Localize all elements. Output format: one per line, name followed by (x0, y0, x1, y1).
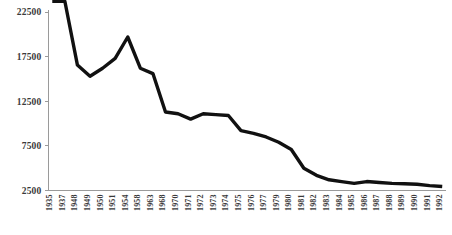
x-tick-label: 1951 (108, 195, 117, 211)
data-series (52, 1, 442, 186)
x-tick-label: 1982 (309, 195, 318, 211)
x-tick-label: 1983 (322, 195, 331, 211)
x-tick-label: 1981 (297, 195, 306, 211)
x-tick-label: 1973 (209, 195, 218, 211)
x-tick-label: 1987 (372, 195, 381, 211)
x-tick-label: 1977 (259, 195, 268, 211)
y-axis: 22500175001250075002500 (17, 7, 49, 196)
x-tick-label: 1949 (83, 195, 92, 211)
x-tick-label: 1984 (335, 195, 344, 211)
x-tick-label: 1979 (272, 195, 281, 211)
x-tick-label: 1989 (397, 195, 406, 211)
x-tick-label: 1937 (58, 195, 67, 211)
x-tick-label: 1963 (146, 195, 155, 211)
y-tick-label: 7500 (22, 141, 42, 151)
x-tick-label: 1992 (435, 195, 444, 211)
series-line (52, 1, 442, 186)
x-tick-label: 1948 (70, 195, 79, 211)
x-tick-label: 1950 (96, 195, 105, 211)
x-tick-label: 1988 (385, 195, 394, 211)
x-tick-label: 1976 (247, 195, 256, 211)
x-tick-label: 1985 (347, 195, 356, 211)
chart-canvas: 22500175001250075002500 1935193719481949… (0, 0, 452, 235)
x-tick-label: 1954 (121, 195, 130, 211)
x-tick-label: 1975 (234, 195, 243, 211)
x-tick-label: 1986 (360, 195, 369, 211)
line-chart: 22500175001250075002500 1935193719481949… (0, 0, 452, 235)
x-tick-label: 1990 (410, 195, 419, 211)
x-tick-label: 1935 (45, 195, 54, 211)
x-tick-label: 1971 (184, 195, 193, 211)
x-axis: 1935193719481949195019511954195819631968… (45, 191, 446, 211)
y-tick-label: 12500 (17, 97, 42, 107)
y-tick-label: 17500 (17, 52, 42, 62)
y-tick-label: 22500 (17, 7, 42, 17)
x-tick-label: 1970 (171, 195, 180, 211)
y-tick-label: 2500 (22, 186, 42, 196)
x-tick-label: 1968 (158, 195, 167, 211)
x-tick-label: 1972 (196, 195, 205, 211)
x-tick-label: 1958 (133, 195, 142, 211)
x-tick-label: 1991 (423, 195, 432, 211)
x-tick-label: 1980 (284, 195, 293, 211)
x-tick-label: 1974 (221, 195, 230, 211)
